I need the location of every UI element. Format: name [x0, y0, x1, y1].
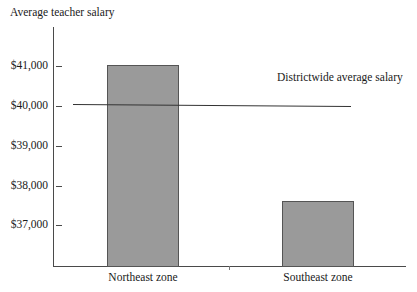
y-axis — [53, 27, 54, 267]
y-tick — [56, 146, 62, 147]
districtwide-average-label: Districtwide average salary — [277, 71, 403, 83]
x-category-label-northeast: Northeast zone — [93, 271, 193, 283]
x-tick — [229, 266, 230, 270]
y-tick — [56, 66, 62, 67]
y-tick — [56, 186, 62, 187]
y-tick-label: $38,000 — [0, 179, 48, 191]
y-tick-label: $41,000 — [0, 59, 48, 71]
y-tick — [56, 225, 62, 226]
y-axis-title: Average teacher salary — [10, 6, 115, 18]
y-tick-label: $39,000 — [0, 139, 48, 151]
y-tick-label: $37,000 — [0, 218, 48, 230]
y-tick-label: $40,000 — [0, 99, 48, 111]
x-category-label-southeast: Southeast zone — [268, 271, 368, 283]
bar-southeast-zone — [282, 201, 354, 267]
bar-northeast-zone — [107, 65, 179, 267]
y-tick — [56, 106, 62, 107]
